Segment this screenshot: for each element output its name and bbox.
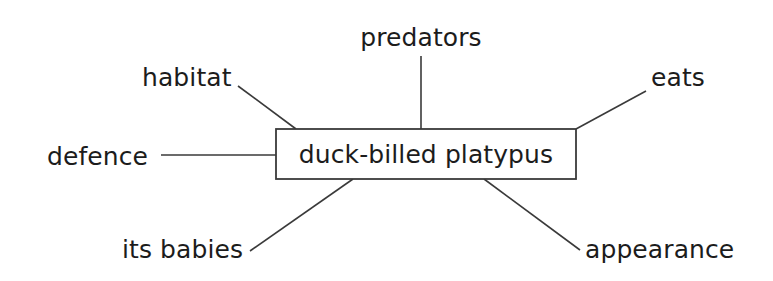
- connector-line-its-babies: [250, 179, 353, 251]
- branch-label-eats: eats: [651, 63, 705, 92]
- connector-line-habitat: [238, 86, 296, 129]
- branch-label-defence: defence: [47, 142, 148, 171]
- branch-label-habitat: habitat: [142, 63, 232, 92]
- branch-label-its-babies: its babies: [122, 235, 243, 264]
- center-topic-label: duck-billed platypus: [299, 140, 553, 169]
- branch-label-appearance: appearance: [585, 235, 734, 264]
- diagram-canvas: duck-billed platypus habitat predators e…: [0, 0, 773, 281]
- spider-diagram: duck-billed platypus habitat predators e…: [0, 0, 773, 281]
- branch-label-predators: predators: [360, 23, 481, 52]
- connector-line-eats: [576, 91, 646, 129]
- connector-line-appearance: [484, 179, 580, 250]
